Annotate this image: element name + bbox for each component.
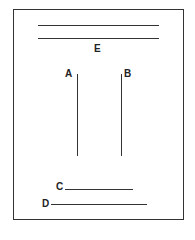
line-d [51, 204, 147, 205]
line-e-top [38, 25, 159, 26]
label-d: D [42, 199, 49, 209]
line-c [65, 189, 133, 190]
label-e: E [94, 44, 101, 54]
label-a: A [65, 69, 72, 79]
line-b [121, 74, 122, 156]
line-e-bottom [38, 38, 159, 39]
label-b: B [124, 69, 131, 79]
line-a [77, 74, 78, 156]
label-c: C [56, 182, 63, 192]
